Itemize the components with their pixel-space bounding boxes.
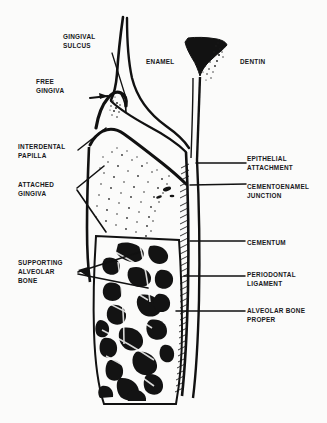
label-supporting-alveolar-bone: SUPPORTING ALVEOLAR BONE (18, 258, 63, 286)
label-periodontal-ligament: PERIODONTAL LIGAMENT (247, 270, 296, 288)
diagram-page: GINGIVAL SULCUS FREE GINGIVA INTERDENTAL… (0, 0, 327, 423)
leader-cej (190, 184, 246, 185)
label-enamel: ENAMEL (146, 57, 174, 66)
label-alveolar-bone-proper: ALVEOLAR BONE PROPER (247, 306, 305, 324)
supporting-alveolar-bone-trabeculae (94, 236, 182, 404)
label-cementoenamel-junction: CEMENTOENAMEL JUNCTION (247, 182, 309, 200)
dentin-funnel (185, 37, 227, 160)
label-attached-gingiva: ATTACHED GINGIVA (18, 180, 54, 198)
label-dentin: DENTIN (240, 57, 265, 66)
leader-attached-gingiva-lower (77, 190, 106, 232)
leader-attached-gingiva-upper (77, 166, 104, 188)
label-cementum: CEMENTUM (247, 238, 286, 247)
leader-interdental-papilla (78, 128, 106, 150)
label-free-gingiva: FREE GINGIVA (36, 77, 64, 95)
label-gingival-sulcus: GINGIVAL SULCUS (63, 32, 95, 50)
root-outline (182, 152, 199, 398)
label-interdental-papilla: INTERDENTAL PAPILLA (18, 142, 65, 160)
label-epithelial-attachment: EPITHELIAL ATTACHMENT (247, 154, 293, 172)
